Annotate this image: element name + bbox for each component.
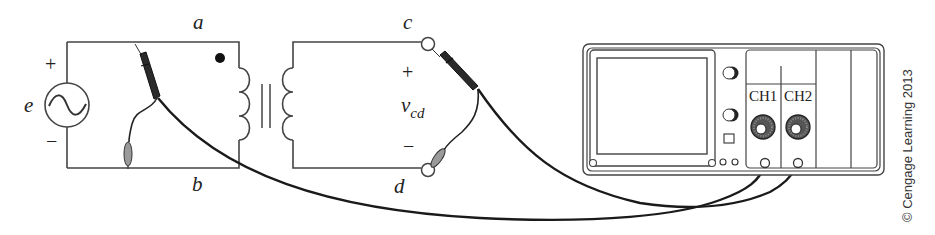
knob-focus[interactable]: [723, 109, 739, 122]
ch2-label: CH2: [784, 88, 812, 104]
bezel-screw-icon: [709, 160, 716, 167]
display-screen: [597, 58, 707, 154]
ch1-label: CH1: [749, 88, 777, 104]
secondary-plus-sign: +: [402, 61, 413, 83]
jack-icon: [720, 159, 726, 165]
bezel-screw-icon: [590, 160, 597, 167]
voltage-label-vcd: vcd: [401, 93, 425, 121]
copyright-notice: © Cengage Learning 2013: [900, 69, 915, 222]
node-label-d: d: [394, 174, 405, 198]
ch1-input-jack[interactable]: [761, 159, 770, 168]
probe-ch2: [428, 49, 478, 169]
node-label-b: b: [192, 172, 203, 196]
polarity-dot-icon: [215, 53, 225, 63]
transformer-icon: [239, 68, 293, 140]
probe-ch1: [124, 44, 160, 169]
source-label: e: [24, 93, 33, 117]
knob-intensity[interactable]: [723, 67, 739, 80]
ch2-volts-div-knob[interactable]: [786, 115, 810, 139]
secondary-minus-sign: −: [403, 135, 414, 157]
terminal-c: [422, 38, 435, 51]
node-label-a: a: [193, 10, 204, 34]
source-minus-sign: −: [46, 130, 57, 152]
oscilloscope: CH1 CH2: [583, 44, 884, 175]
ch1-volts-div-knob[interactable]: [751, 115, 775, 139]
ac-source-icon: [45, 83, 89, 127]
jack-icon: [732, 159, 738, 165]
source-plus-sign: +: [45, 53, 56, 75]
node-label-c: c: [403, 10, 413, 34]
power-button[interactable]: [724, 134, 734, 143]
transformer-oscilloscope-diagram: + − e a b c d + − vcd: [0, 0, 935, 235]
ch2-input-jack[interactable]: [794, 159, 803, 168]
